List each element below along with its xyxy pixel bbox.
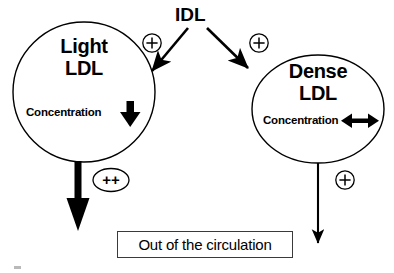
dense-ldl-concentration-label: Concentration [263, 115, 338, 127]
light-ldl-title-line1: Light [34, 36, 134, 56]
diagram-canvas: IDL Light LDL Concentration Dense LDL Co… [0, 0, 394, 273]
light-ldl-title-line2: LDL [34, 58, 134, 78]
outcome-box-label: Out of the circulation [118, 232, 292, 257]
outcome-box: Out of the circulation [117, 231, 293, 258]
scan-artifact-speck [14, 266, 21, 269]
dense-ldl-title-line1: Dense [268, 61, 368, 81]
edge-light-ldl-to-outcome [67, 161, 90, 231]
edge-idl-to-dense-ldl [207, 28, 248, 68]
idl-source-label: IDL [175, 5, 206, 24]
light-ldl-concentration-label: Concentration [26, 107, 101, 119]
plus-plus-badge-label: ++ [96, 172, 126, 187]
dense-ldl-title-line2: LDL [268, 83, 368, 103]
